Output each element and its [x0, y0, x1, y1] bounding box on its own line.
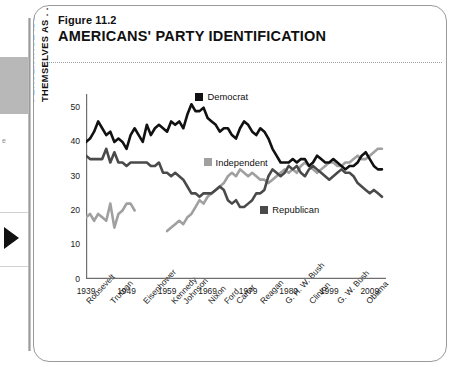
y-tick-label: 0	[58, 274, 80, 284]
plot-area	[86, 94, 386, 279]
y-tick-label: 40	[58, 136, 80, 146]
y-tick-label: 50	[58, 102, 80, 112]
figure-card: Figure 11.2 AMERICANS' PARTY IDENTIFICAT…	[33, 5, 447, 362]
play-triangle-icon[interactable]	[4, 227, 19, 249]
series-line-independent	[86, 204, 135, 228]
y-tick-label: 20	[58, 205, 80, 215]
title-divider	[46, 62, 442, 63]
series-line-democrat	[86, 104, 382, 169]
gutter-highlight-block	[0, 57, 28, 114]
y-tick-label: 30	[58, 171, 80, 181]
scrollbar-rail[interactable]	[28, 18, 31, 351]
y-tick-label: 10	[58, 239, 80, 249]
series-line-republican	[86, 149, 382, 207]
gutter-divider-secondary	[0, 266, 28, 267]
gutter-divider	[0, 212, 28, 213]
page-gutter: e	[0, 0, 33, 367]
figure-title: AMERICANS' PARTY IDENTIFICATION	[58, 28, 326, 44]
line-chart-svg	[86, 94, 386, 279]
y-axis-label-line2: THEMSELVES AS . . .	[40, 5, 58, 102]
series-line-independent	[167, 149, 382, 231]
gutter-text-fragment: e	[2, 137, 6, 144]
figure-number: Figure 11.2	[58, 14, 117, 26]
